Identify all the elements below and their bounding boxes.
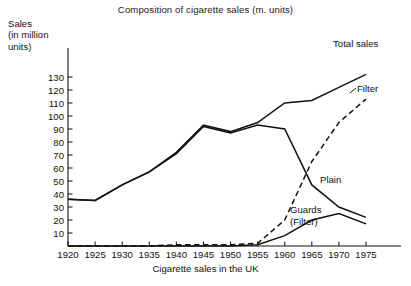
x-tick-label: 1925 [84,249,105,260]
x-tick-label: 1950 [220,249,241,260]
x-tick-label: 1955 [247,249,268,260]
y-tick-label: 10 [53,228,64,239]
y-tick-label: 100 [48,111,64,122]
y-tick-label: 40 [53,189,64,200]
x-tick-label: 1940 [166,249,187,260]
y-tick-label: 70 [53,150,64,161]
series-line-filter [68,99,366,246]
y-tick-label: 60 [53,163,64,174]
x-tick-label: 1960 [274,249,295,260]
y-tick-label: 30 [53,202,64,213]
y-tick-label: 110 [49,98,64,109]
y-tick-label: 20 [53,215,64,226]
series-annotation-filter: Filter [357,83,379,94]
series-annotation-plain: Plain [320,174,341,185]
x-tick-label: 1965 [301,249,322,260]
x-tick-label: 1930 [112,249,133,260]
x-tick-label: 1975 [355,249,376,260]
x-axis-title: Cigarette sales in the UK [0,263,411,274]
filter-label-leader [350,88,356,93]
chart-plot-area: 1020304050607080901001101201301920192519… [0,0,411,286]
x-tick-label: 1935 [139,249,160,260]
figure-container: Composition of cigarette sales (m. units… [0,0,411,286]
series-annotation-guards-filter: Guards [290,204,322,215]
series-annotation-total-sales: Total sales [333,38,379,49]
x-tick-label: 1945 [193,249,214,260]
y-tick-label: 80 [53,137,64,148]
series-annotation-guards-filter: (Filter) [290,216,318,227]
series-line-guards-filter [68,214,366,247]
y-tick-label: 90 [53,124,64,135]
y-tick-label: 50 [53,176,64,187]
y-tick-label: 130 [48,72,64,83]
x-tick-label: 1970 [328,249,349,260]
x-tick-label: 1920 [57,249,78,260]
y-tick-label: 120 [48,85,64,96]
